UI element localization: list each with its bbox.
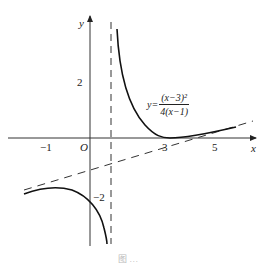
function-formula: y= (x−3)² 4(x−1) bbox=[147, 92, 189, 117]
x-tick-3: 3 bbox=[162, 142, 168, 153]
x-tick-neg1: −1 bbox=[40, 142, 52, 153]
figure-caption: 图 … bbox=[118, 252, 138, 265]
formula-denominator: 4(x−1) bbox=[160, 105, 188, 117]
y-tick-2: 2 bbox=[77, 77, 83, 88]
right-branch-curve bbox=[117, 29, 236, 138]
formula-numerator: (x−3)² bbox=[159, 92, 189, 105]
y-tick-neg2: −2 bbox=[93, 192, 105, 203]
x-axis-label: x bbox=[251, 143, 256, 154]
x-tick-5: 5 bbox=[212, 142, 218, 153]
origin-label: O bbox=[80, 142, 88, 153]
formula-lhs: y= bbox=[147, 99, 158, 110]
y-axis-label: y bbox=[79, 18, 84, 29]
function-graph bbox=[0, 0, 270, 265]
formula-fraction: (x−3)² 4(x−1) bbox=[159, 92, 189, 117]
